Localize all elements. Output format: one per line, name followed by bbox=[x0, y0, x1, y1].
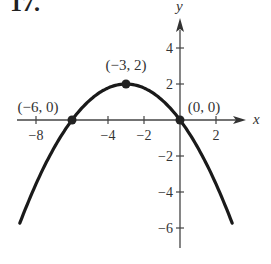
point-marker bbox=[68, 116, 77, 125]
x-tick-label: 2 bbox=[213, 128, 220, 143]
point-marker bbox=[122, 80, 131, 89]
y-tick-label: 4 bbox=[166, 41, 173, 56]
x-tick-label: −2 bbox=[137, 128, 152, 143]
axes: xy−8−4−2242−2−4−6 bbox=[17, 0, 260, 248]
point-label: (−3, 2) bbox=[106, 57, 147, 74]
point-marker bbox=[176, 116, 185, 125]
labeled-points: (−6, 0)(−3, 2)(0, 0) bbox=[18, 57, 221, 125]
y-axis-arrow-icon bbox=[176, 18, 184, 32]
y-tick-label: −4 bbox=[158, 185, 173, 200]
parabola-graph: xy−8−4−2242−2−4−6 (−6, 0)(−3, 2)(0, 0) bbox=[0, 0, 271, 264]
y-tick-label: −6 bbox=[158, 221, 173, 236]
x-axis-label: x bbox=[252, 111, 260, 127]
point-label: (−6, 0) bbox=[18, 99, 59, 116]
x-tick-label: −8 bbox=[29, 128, 44, 143]
x-tick-label: −4 bbox=[101, 128, 116, 143]
point-label: (0, 0) bbox=[188, 99, 221, 116]
y-tick-label: 2 bbox=[166, 77, 173, 92]
y-axis-label: y bbox=[174, 0, 183, 14]
y-tick-label: −2 bbox=[158, 149, 173, 164]
